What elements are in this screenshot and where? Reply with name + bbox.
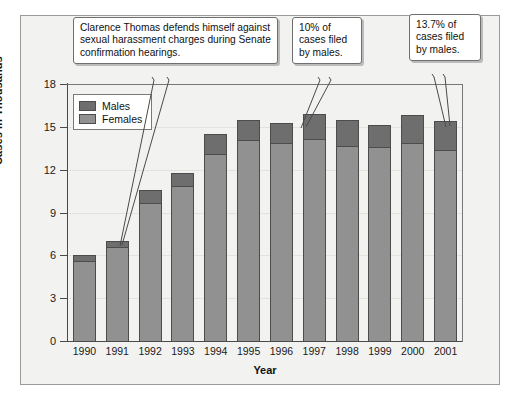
bar-segment-females xyxy=(336,147,359,341)
bar-column xyxy=(401,115,424,341)
bar-segment-males xyxy=(73,255,96,262)
bar-segment-females xyxy=(401,144,424,341)
y-axis-tick xyxy=(60,255,67,256)
bar-segment-males xyxy=(401,115,424,144)
y-axis-tick-label: 18 xyxy=(26,79,56,89)
bar-column xyxy=(336,120,359,341)
bar-segment-males xyxy=(139,190,162,204)
legend-swatch-females-icon xyxy=(79,114,96,124)
bar-column xyxy=(270,123,293,341)
bar-segment-females xyxy=(139,204,162,341)
legend-label-males: Males xyxy=(102,101,130,111)
bar-segment-males xyxy=(368,125,391,148)
chart-figure: 0369121518 Cases in Thousands 1990199119… xyxy=(0,0,520,404)
bar-column xyxy=(237,120,260,341)
legend-label-females: Females xyxy=(102,114,142,124)
bar-segment-females xyxy=(368,148,391,341)
bar-segment-males xyxy=(303,114,326,140)
bar-column xyxy=(204,134,227,341)
x-axis-title: Year xyxy=(68,364,462,376)
bar-column xyxy=(139,190,162,341)
bar-column xyxy=(303,114,326,341)
bar-segment-females xyxy=(270,144,293,341)
x-axis-tick-labels: 1990199119921993199419951996199719981999… xyxy=(68,345,462,361)
bar-column xyxy=(106,241,129,341)
legend-item-males: Males xyxy=(79,99,142,112)
bar-segment-males xyxy=(171,173,194,187)
y-axis-tick xyxy=(60,213,67,214)
y-axis-tick-label: 0 xyxy=(26,336,56,346)
plot-right-border xyxy=(462,84,463,342)
y-axis-tick-label: 6 xyxy=(26,250,56,260)
bar-segment-females xyxy=(237,141,260,341)
chart-legend: Males Females xyxy=(73,94,152,130)
bar-column xyxy=(171,173,194,341)
y-axis-tick xyxy=(60,341,67,342)
bar-segment-females xyxy=(73,262,96,341)
bar-segment-males xyxy=(237,120,260,141)
y-axis-tick xyxy=(60,127,67,128)
bar-segment-females xyxy=(171,187,194,341)
bar-segment-males xyxy=(270,123,293,144)
x-axis-tick-label: 2001 xyxy=(426,345,466,357)
x-axis-line xyxy=(67,341,463,342)
y-axis-tick xyxy=(60,298,67,299)
y-axis-tick-label: 12 xyxy=(26,165,56,175)
bar-segment-females xyxy=(303,140,326,341)
y-axis-tick xyxy=(60,84,67,85)
bar-segment-females xyxy=(106,248,129,341)
bar-segment-males xyxy=(204,134,227,155)
y-axis-tick-label: 9 xyxy=(26,208,56,218)
y-axis-tick-label: 3 xyxy=(26,293,56,303)
bar-column xyxy=(73,255,96,341)
y-axis-tick xyxy=(60,170,67,171)
y-axis-tick-label: 15 xyxy=(26,122,56,132)
bar-column xyxy=(434,121,457,341)
bar-column xyxy=(368,125,391,341)
callout-1996-male-share: 10% of cases filed by males. xyxy=(292,17,362,64)
bar-segment-males xyxy=(106,241,129,248)
y-axis-title: Cases in Thousands xyxy=(0,56,4,165)
bar-segment-males xyxy=(336,120,359,147)
bar-segment-males xyxy=(434,121,457,151)
legend-item-females: Females xyxy=(79,112,142,125)
callout-clarence-thomas: Clarence Thomas defends himself against … xyxy=(73,17,278,64)
bar-segment-females xyxy=(434,151,457,341)
callout-2001-male-share: 13.7% of cases filed by males. xyxy=(409,14,481,61)
bar-segment-females xyxy=(204,155,227,341)
legend-swatch-males-icon xyxy=(79,101,96,111)
